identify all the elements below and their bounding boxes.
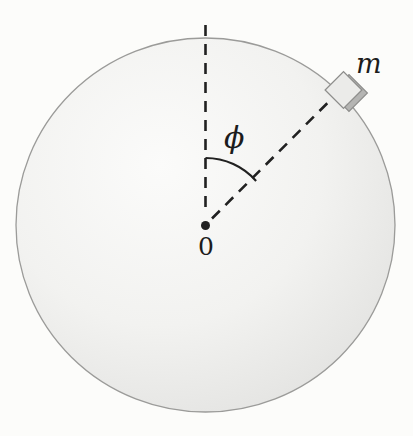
center-label: 0 [198,232,214,261]
sphere-diagram: m ϕ 0 [0,0,413,436]
figure-canvas: m ϕ 0 [0,0,413,436]
mass-label: m [356,48,382,79]
angle-label: ϕ [224,120,244,155]
center-dot [201,221,210,230]
